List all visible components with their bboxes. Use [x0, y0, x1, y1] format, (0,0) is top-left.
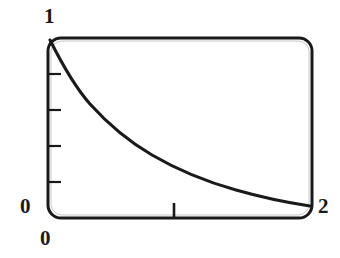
decay-curve: [50, 40, 310, 206]
plot-frame-inner-shadow: [51, 41, 309, 215]
x-axis-min-label: 0: [40, 228, 51, 249]
plot-frame: [48, 38, 312, 218]
figure-root: 1 0 0 2: [0, 0, 340, 258]
y-axis-max-label: 1: [44, 6, 55, 27]
y-axis-min-label: 0: [20, 196, 31, 217]
plot-canvas: [0, 0, 340, 258]
x-axis-max-label: 2: [318, 196, 329, 217]
